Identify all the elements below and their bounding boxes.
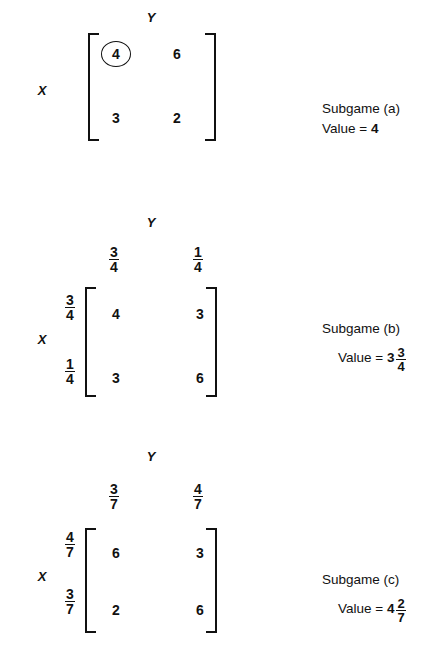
fraction-numerator: 3: [109, 245, 119, 260]
subgame-value-c: Value = 4 2 7: [338, 596, 406, 624]
matrix-cell-r0c0: 6: [101, 546, 131, 560]
subgame-name-a: Subgame (a): [322, 99, 400, 119]
matrix-cell-r1c0: 3: [101, 371, 131, 385]
fraction-denominator: 4: [109, 260, 119, 274]
column-player-label-b: Y: [139, 216, 163, 229]
value-prefix-c: Value =: [338, 601, 387, 616]
value-whole-b: 3: [387, 350, 395, 365]
value-fraction-b: 3 4: [396, 346, 405, 374]
matrix-cell-r1c1: 2: [162, 111, 192, 125]
fraction-denominator: 7: [65, 545, 75, 559]
column-strategy-0-c: 3 7: [99, 482, 129, 512]
matrix-right-bracket: [206, 528, 217, 633]
value-whole-c: 4: [387, 601, 395, 616]
fraction-denominator: 4: [396, 360, 405, 373]
row-player-label-a: X: [32, 84, 52, 97]
fraction: 3 4: [65, 293, 75, 323]
matrix-cell-r0c0: 4: [101, 307, 131, 321]
matrix-left-bracket: [85, 287, 96, 397]
fraction-numerator: 2: [396, 597, 405, 611]
fraction-numerator: 4: [65, 530, 75, 545]
payoff-matrix-a: 4 6 3 2: [88, 33, 216, 141]
fraction-numerator: 1: [65, 357, 75, 372]
matrix-cell-r1c0: 2: [101, 603, 131, 617]
matrix-left-bracket: [85, 528, 96, 633]
payoff-matrix-b: 4 3 3 6: [85, 287, 217, 397]
matrix-cell-r0c1: 3: [185, 307, 215, 321]
row-strategy-1-b: 1 4: [57, 357, 83, 387]
fraction-denominator: 7: [396, 611, 405, 624]
fraction-numerator: 3: [65, 293, 75, 308]
subgame-value-b: Value = 3 3 4: [338, 345, 406, 373]
column-player-label-c: Y: [139, 450, 163, 463]
fraction-denominator: 7: [109, 497, 119, 511]
value-fraction-c: 2 7: [396, 597, 405, 625]
subgame-block-c: Y X 3 7 4 7 4 7 3 7: [0, 440, 430, 657]
caption-a: Subgame (a) Value = 4: [322, 99, 400, 138]
row-strategy-0-b: 3 4: [57, 293, 83, 323]
matrix-cell-r0c1: 3: [185, 546, 215, 560]
column-strategy-1-c: 4 7: [183, 482, 213, 512]
subgame-value-a: Value = 4: [322, 119, 400, 139]
fraction-numerator: 3: [396, 346, 405, 360]
fraction-denominator: 4: [193, 260, 203, 274]
fraction: 4 7: [65, 530, 75, 560]
matrix-cell-r1c1: 6: [185, 603, 215, 617]
fraction-denominator: 7: [65, 602, 75, 616]
fraction: 1 4: [193, 245, 203, 275]
subgame-name-c: Subgame (c): [322, 570, 406, 590]
row-strategy-1-c: 3 7: [57, 587, 83, 617]
matrix-cell-r1c1: 6: [185, 371, 215, 385]
column-player-label-a: Y: [139, 11, 163, 24]
subgame-name-b: Subgame (b): [322, 319, 406, 339]
matrix-cell-r0c1: 6: [162, 47, 192, 61]
matrix-cell-r0c0: 4: [101, 47, 131, 61]
fraction-denominator: 4: [65, 308, 75, 322]
column-strategy-1-b: 1 4: [183, 245, 213, 275]
column-strategy-0-b: 3 4: [99, 245, 129, 275]
value-whole-a: 4: [371, 121, 379, 136]
fraction-numerator: 4: [193, 482, 203, 497]
payoff-matrix-c: 6 3 2 6: [85, 528, 217, 633]
subgame-block-a: Y X 4 6 3 2 Subgame (a) Value = 4: [0, 0, 430, 215]
fraction-denominator: 4: [65, 372, 75, 386]
fraction: 3 7: [65, 587, 75, 617]
fraction-numerator: 1: [193, 245, 203, 260]
row-player-label-b: X: [32, 333, 52, 346]
row-player-label-c: X: [32, 570, 52, 583]
matrix-right-bracket: [205, 33, 216, 141]
caption-c: Subgame (c) Value = 4 2 7: [322, 570, 406, 623]
fraction: 1 4: [65, 357, 75, 387]
matrix-cell-r1c0: 3: [101, 111, 131, 125]
caption-b: Subgame (b) Value = 3 3 4: [322, 319, 406, 372]
fraction: 3 7: [109, 482, 119, 512]
fraction: 3 4: [109, 245, 119, 275]
fraction: 4 7: [193, 482, 203, 512]
subgame-block-b: Y X 3 4 1 4 3 4 1 4: [0, 215, 430, 440]
value-prefix-b: Value =: [338, 350, 387, 365]
value-prefix-a: Value =: [322, 121, 371, 136]
row-strategy-0-c: 4 7: [57, 530, 83, 560]
fraction-numerator: 3: [65, 587, 75, 602]
matrix-left-bracket: [88, 33, 99, 141]
payoff-matrix-figure: Y X 4 6 3 2 Subgame (a) Value = 4 Y X 3 …: [0, 0, 430, 657]
fraction-denominator: 7: [193, 497, 203, 511]
fraction-numerator: 3: [109, 482, 119, 497]
